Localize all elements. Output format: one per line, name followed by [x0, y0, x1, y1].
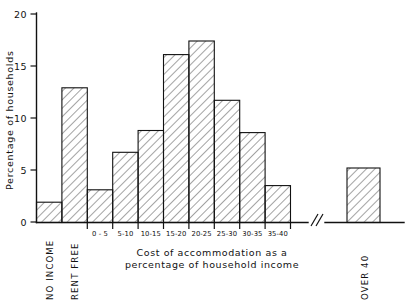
- x-cat-label-over-40: OVER 40: [360, 255, 370, 300]
- y-tick-label-0: 0: [21, 217, 27, 228]
- x-bin-label-0-5: 0 - 5: [92, 230, 108, 238]
- y-tick-label-20: 20: [14, 9, 27, 20]
- x-bin-label-5-10: 5-10: [117, 230, 133, 238]
- bar-5-10: [113, 152, 138, 222]
- x-bin-label-35-40: 35-40: [268, 230, 288, 238]
- x-cat-label-no-income: NO INCOME: [45, 240, 55, 300]
- histogram-chart: 20 15 10 5 0 Percentage of households: [0, 0, 409, 305]
- bar-rent-free: [62, 88, 87, 223]
- x-bin-label-10-15: 10-15: [141, 230, 161, 238]
- bar-35-40: [265, 186, 290, 223]
- bar-20-25: [189, 41, 214, 223]
- x-axis-title-line2: percentage of household income: [125, 259, 299, 270]
- bar-15-20: [164, 55, 189, 223]
- x-bin-label-20-25: 20-25: [191, 230, 211, 238]
- bar-10-15: [138, 131, 163, 223]
- bar-no-income: [37, 202, 62, 222]
- bar-over-40: [347, 168, 380, 223]
- bar-0-5: [87, 190, 112, 223]
- y-axis-title: Percentage of households: [4, 50, 15, 190]
- x-bin-label-15-20: 15-20: [166, 230, 186, 238]
- bar-30-35: [240, 133, 265, 223]
- chart-canvas: 20 15 10 5 0 Percentage of households: [0, 0, 409, 305]
- y-tick-label-15: 15: [14, 61, 27, 72]
- y-tick-label-10: 10: [14, 113, 27, 124]
- bar-25-30: [214, 100, 239, 222]
- y-tick-label-5: 5: [21, 165, 27, 176]
- x-bin-label-25-30: 25-30: [217, 230, 237, 238]
- x-bin-label-30-35: 30-35: [242, 230, 262, 238]
- x-axis-title-line1: Cost of accommodation as a: [137, 247, 288, 258]
- x-cat-label-rent-free: RENT FREE: [70, 243, 80, 301]
